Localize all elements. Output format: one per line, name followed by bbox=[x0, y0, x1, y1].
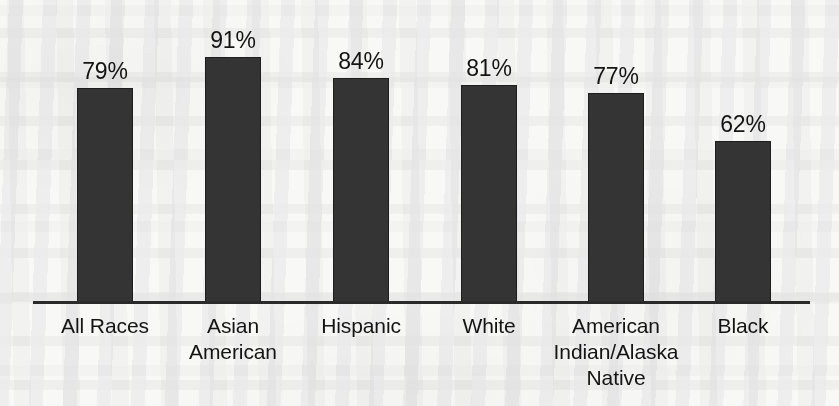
bar-value-label: 81% bbox=[434, 55, 544, 82]
bar-white bbox=[461, 85, 517, 302]
bar-american-indian-alaska-native bbox=[588, 93, 644, 302]
bar-asian-american bbox=[205, 57, 261, 302]
chart-figure: 79% 91% 84% 81% 77% 62% All Races Asian … bbox=[0, 0, 839, 406]
bar-all-races bbox=[77, 88, 133, 302]
plot-area: 79% 91% 84% 81% 77% 62% All Races Asian … bbox=[0, 0, 839, 406]
bar-black bbox=[715, 141, 771, 302]
bar-value-label: 91% bbox=[178, 27, 288, 54]
x-axis-baseline bbox=[33, 301, 810, 304]
bar-value-label: 62% bbox=[688, 111, 798, 138]
bar-value-label: 79% bbox=[50, 58, 160, 85]
bar-hispanic bbox=[333, 78, 389, 302]
x-axis-label-black: Black bbox=[658, 313, 828, 339]
bar-value-label: 84% bbox=[306, 48, 416, 75]
bar-value-label: 77% bbox=[561, 63, 671, 90]
